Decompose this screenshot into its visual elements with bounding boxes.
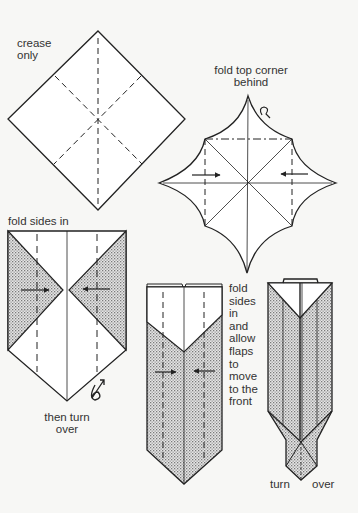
step-2-label: fold top corner behind [196, 64, 306, 88]
label-line: front [229, 395, 258, 408]
label-line: allow [229, 332, 258, 345]
step-3-shape [8, 231, 126, 401]
label-line: in [229, 307, 258, 320]
step-1-label: crease only [17, 37, 52, 61]
label-line: over [36, 423, 98, 435]
step-5-footer-right: over [312, 478, 334, 490]
step-5-footer-left: turn [270, 478, 290, 490]
step-3-label: fold sides in [8, 215, 69, 227]
label-line: fold top corner [196, 64, 306, 76]
label-line: fold sides in [8, 215, 69, 227]
label-line: to the [229, 383, 258, 396]
label-line: move [229, 370, 258, 383]
label-line: flaps [229, 345, 258, 358]
label-line: then turn [36, 411, 98, 423]
turn-over-icon [92, 380, 105, 400]
label-line: fold [229, 282, 258, 295]
step-4-shape [147, 284, 222, 484]
step-4-label: fold sides in and allow flaps to move to… [229, 282, 258, 408]
label-line: crease [17, 37, 52, 49]
step-2-shape [159, 96, 336, 273]
label-line: behind [196, 76, 306, 88]
label-line: to [229, 358, 258, 371]
label-line: sides [229, 295, 258, 308]
fold-behind-arrow-icon [260, 107, 270, 118]
step-3-footer: then turn over [36, 411, 98, 435]
label-line: only [17, 49, 52, 61]
step-5-shape [268, 279, 332, 480]
label-line: and [229, 320, 258, 333]
